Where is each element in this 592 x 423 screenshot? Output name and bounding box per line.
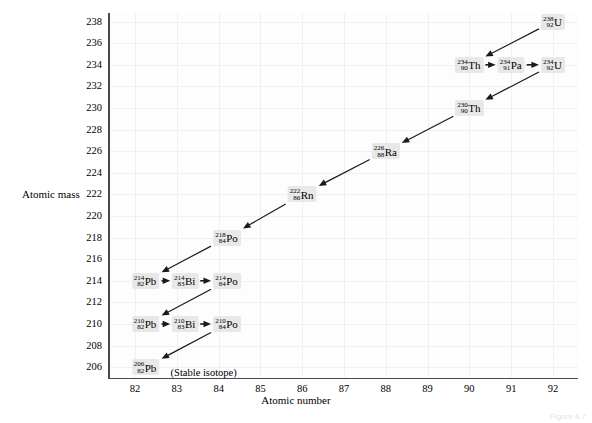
gridline-horizontal	[110, 346, 578, 347]
nuclide-numbers: 21482	[134, 275, 145, 288]
element-symbol: Po	[226, 232, 238, 244]
atomic-number: 82	[134, 324, 145, 331]
stable-note: (Stable isotope)	[171, 367, 237, 378]
y-axis-tick-label: 226	[68, 146, 102, 157]
y-axis-tick-label: 210	[68, 319, 102, 330]
atomic-number: 90	[457, 109, 468, 116]
y-axis-tick-label: 230	[68, 103, 102, 114]
nuclide-label-u238: 23892U	[541, 14, 565, 30]
atomic-number: 86	[290, 195, 301, 202]
y-axis-tick-label: 208	[68, 341, 102, 352]
y-axis-tick-label: 234	[68, 60, 102, 71]
element-symbol: Pb	[145, 362, 157, 374]
nuclide-label-po214: 21484Po	[213, 273, 241, 289]
x-axis-tick-label: 89	[408, 383, 448, 394]
gridline-horizontal	[110, 259, 578, 260]
y-axis-tick-label: 238	[68, 17, 102, 28]
element-symbol: U	[554, 59, 562, 71]
x-axis-tick-label: 91	[491, 383, 531, 394]
nuclide-numbers: 20682	[134, 361, 145, 374]
element-symbol: Po	[226, 275, 238, 287]
atomic-number: 82	[134, 368, 145, 375]
y-axis-tick-label: 220	[68, 211, 102, 222]
x-axis-tick-label: 85	[240, 383, 280, 394]
nuclide-numbers: 23090	[457, 102, 468, 115]
atomic-number: 88	[374, 152, 385, 159]
nuclide-label-rn222: 22286Rn	[288, 186, 317, 202]
atomic-number: 90	[457, 65, 468, 72]
nuclide-label-bi210: 21083Bi	[172, 316, 198, 332]
y-axis-tick-label: 228	[68, 125, 102, 136]
element-symbol: Pa	[511, 59, 522, 71]
atomic-number: 83	[174, 324, 185, 331]
x-axis-tick-label: 86	[282, 383, 322, 394]
y-axis-tick-label: 218	[68, 233, 102, 244]
x-axis-tick-label: 87	[324, 383, 364, 394]
nuclide-numbers: 22688	[374, 145, 385, 158]
nuclide-label-bi214: 21483Bi	[172, 273, 198, 289]
nuclide-numbers: 21884	[215, 232, 226, 245]
atomic-number: 92	[543, 22, 554, 29]
y-axis-tick-label: 232	[68, 81, 102, 92]
element-symbol: Po	[226, 318, 238, 330]
decay-chain-figure: Atomic mass Atomic number 20620821021221…	[0, 0, 592, 423]
element-symbol: Bi	[185, 275, 195, 287]
nuclide-label-pa234: 23491Pa	[498, 57, 525, 73]
gridline-horizontal	[110, 216, 578, 217]
nuclide-numbers: 22286	[290, 188, 301, 201]
nuclide-label-po218: 21884Po	[213, 230, 241, 246]
nuclide-label-ra226: 22688Ra	[372, 143, 400, 159]
nuclide-numbers: 23492	[543, 59, 554, 72]
x-axis-tick-label: 88	[366, 383, 406, 394]
nuclide-numbers: 21084	[215, 318, 226, 331]
nuclide-numbers: 21483	[174, 275, 185, 288]
nuclide-numbers: 23892	[543, 16, 554, 29]
x-axis-tick-label: 83	[157, 383, 197, 394]
element-symbol: Pb	[145, 275, 157, 287]
gridline-horizontal	[110, 194, 578, 195]
element-symbol: Pb	[145, 318, 157, 330]
x-axis-tick-label: 82	[115, 383, 155, 394]
gridline-horizontal	[110, 130, 578, 131]
nuclide-label-po210: 21084Po	[213, 316, 241, 332]
x-axis-tick-label: 90	[449, 383, 489, 394]
nuclide-label-pb206: 20682Pb	[132, 359, 160, 375]
atomic-number: 84	[215, 281, 226, 288]
x-axis-title: Atomic number	[0, 394, 592, 406]
y-axis-tick-label: 216	[68, 254, 102, 265]
gridline-horizontal	[110, 22, 578, 23]
y-axis-tick-label: 212	[68, 297, 102, 308]
y-axis-tick-label: 236	[68, 38, 102, 49]
element-symbol: Th	[468, 59, 480, 71]
figure-caption: Figure 4.7	[550, 412, 586, 421]
y-axis-tick-label: 206	[68, 362, 102, 373]
gridline-horizontal	[110, 173, 578, 174]
y-axis-tick-label: 222	[68, 189, 102, 200]
gridline-horizontal	[110, 108, 578, 109]
atomic-number: 91	[500, 65, 511, 72]
nuclide-label-th230: 23090Th	[455, 100, 483, 116]
nuclide-label-pb214: 21482Pb	[132, 273, 160, 289]
nuclide-numbers: 21484	[215, 275, 226, 288]
nuclide-label-u234: 23492U	[541, 57, 565, 73]
y-axis-tick-label: 224	[68, 168, 102, 179]
gridline-horizontal	[110, 238, 578, 239]
element-symbol: Rn	[301, 189, 314, 201]
atomic-number: 82	[134, 281, 145, 288]
gridline-horizontal	[110, 302, 578, 303]
atomic-number: 84	[215, 324, 226, 331]
nuclide-label-pb210: 21082Pb	[132, 316, 160, 332]
gridline-horizontal	[110, 43, 578, 44]
gridline-horizontal	[110, 151, 578, 152]
nuclide-numbers: 23491	[500, 59, 511, 72]
atomic-number: 92	[543, 65, 554, 72]
element-symbol: Bi	[185, 318, 195, 330]
element-symbol: Th	[468, 103, 480, 115]
nuclide-numbers: 21082	[134, 318, 145, 331]
x-axis-tick-label: 92	[533, 383, 573, 394]
atomic-number: 83	[174, 281, 185, 288]
nuclide-label-th234: 23490Th	[455, 57, 483, 73]
nuclide-numbers: 21083	[174, 318, 185, 331]
y-axis-tick-label: 214	[68, 276, 102, 287]
nuclide-numbers: 23490	[457, 59, 468, 72]
